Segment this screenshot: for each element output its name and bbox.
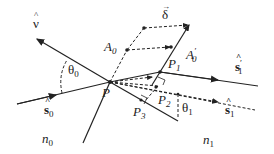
theta1-label: θ1	[182, 101, 193, 117]
theta0-label: θ0	[68, 63, 79, 79]
delta-label: →δ	[162, 8, 168, 21]
s0-label: ^s0	[44, 103, 54, 119]
A0-label: A0	[104, 40, 116, 56]
P2-label: P2	[158, 93, 170, 109]
n1-label: n1	[203, 133, 214, 149]
A0-prime-label: A′0	[186, 47, 196, 64]
P1-label: P1	[168, 57, 180, 73]
n0-label: n0	[42, 132, 53, 148]
P3-label: P3	[133, 105, 145, 121]
refraction-diagram: ^ν →δ A0 A′0 P P1 P2 P3 θ0 θ1 ^s0 ^s′1 ^…	[0, 0, 274, 154]
s1-prime-label: ^s′1	[235, 59, 243, 76]
P-label: P	[102, 86, 110, 99]
s1-label: ^s1	[225, 103, 235, 119]
nu-label: ^ν	[33, 17, 39, 30]
